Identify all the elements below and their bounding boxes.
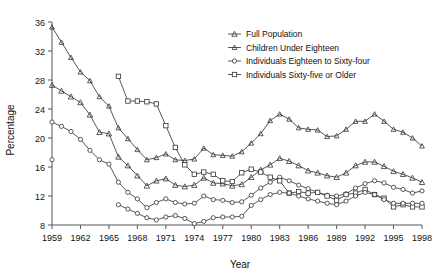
- legend-label: Individuals Eighteen to Sixty-four: [246, 56, 370, 66]
- data-series-group: [49, 25, 424, 226]
- legend-item: Individuals Sixty-five or Older: [228, 70, 356, 80]
- legend-label: Children Under Eighteen: [246, 43, 339, 53]
- x-tick-label: 1995: [384, 233, 404, 243]
- series-line: [49, 82, 424, 188]
- x-tick-label: 1980: [241, 233, 261, 243]
- x-tick-label: 1977: [213, 233, 233, 243]
- x-axis: 1959196219651968197119741977198019831986…: [42, 225, 432, 243]
- y-tick-label: 36: [35, 18, 45, 28]
- poverty-rate-line-chart: 812162024283236 195919621965196819711974…: [0, 0, 439, 276]
- x-tick-label: 1962: [70, 233, 90, 243]
- x-tick-label: 1989: [327, 233, 347, 243]
- x-tick-label: 1971: [156, 233, 176, 243]
- y-tick-label: 12: [35, 192, 45, 202]
- y-tick-label: 20: [35, 134, 45, 144]
- y-tick-label: 28: [35, 76, 45, 86]
- x-tick-label: 1965: [99, 233, 119, 243]
- y-tick-label: 16: [35, 163, 45, 173]
- x-tick-label: 1968: [127, 233, 147, 243]
- x-tick-label: 1974: [184, 233, 204, 243]
- x-tick-label: 1998: [412, 233, 432, 243]
- chart-canvas: 812162024283236 195919621965196819711974…: [0, 0, 439, 276]
- x-axis-title: Year: [230, 259, 251, 270]
- legend-item: Children Under Eighteen: [228, 43, 339, 53]
- y-tick-label: 32: [35, 47, 45, 57]
- chart-legend: Full PopulationChildren Under EighteenIn…: [228, 29, 370, 80]
- series-line: [50, 158, 424, 226]
- x-tick-label: 1992: [355, 233, 375, 243]
- y-axis: 812162024283236: [35, 18, 52, 231]
- legend-item: Individuals Eighteen to Sixty-four: [228, 56, 370, 66]
- y-tick-label: 8: [40, 221, 45, 231]
- y-axis-title: Percentage: [5, 104, 16, 156]
- legend-item: Full Population: [228, 29, 303, 39]
- y-tick-label: 24: [35, 105, 45, 115]
- x-tick-label: 1986: [298, 233, 318, 243]
- series-line: [116, 74, 424, 209]
- x-tick-label: 1959: [42, 233, 62, 243]
- legend-label: Full Population: [246, 29, 303, 39]
- legend-label: Individuals Sixty-five or Older: [246, 70, 356, 80]
- x-tick-label: 1983: [270, 233, 290, 243]
- series-line: [50, 25, 425, 163]
